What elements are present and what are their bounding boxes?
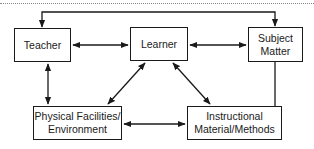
edge-top-loop: [42, 12, 275, 27]
edge-learner-instruct: [173, 63, 210, 104]
node-physical-facilities: Physical Facilities/ Environment: [33, 106, 122, 140]
node-teacher-label: Teacher: [24, 39, 61, 52]
node-subject-matter-label: Subject Matter: [258, 32, 293, 58]
node-learner-label: Learner: [141, 38, 177, 51]
node-instructional-material: Instructional Material/Methods: [187, 106, 282, 140]
node-physical-facilities-label: Physical Facilities/ Environment: [35, 110, 121, 136]
node-learner: Learner: [130, 27, 188, 61]
node-teacher: Teacher: [14, 28, 71, 62]
node-subject-matter: Subject Matter: [248, 27, 303, 62]
edge-learner-physical: [108, 63, 145, 104]
diagram-canvas: Teacher Learner Subject Matter Physical …: [0, 0, 314, 149]
node-instructional-material-label: Instructional Material/Methods: [194, 110, 275, 136]
